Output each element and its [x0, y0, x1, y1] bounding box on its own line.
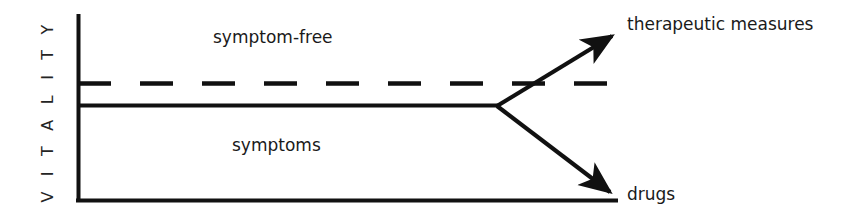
drugs-label: drugs: [627, 186, 675, 203]
therapeutic-measures-label: therapeutic measures: [627, 16, 813, 33]
vitality-diagram: V I T A L I T Y symptom-free symptoms th…: [0, 0, 864, 221]
y-axis-label: V I T A L I T Y: [40, 19, 56, 202]
symptom-free-zone-label: symptom-free: [213, 29, 333, 46]
therapeutic-measures-arrow: [497, 36, 612, 106]
drugs-arrow: [497, 106, 610, 192]
symptoms-zone-label: symptoms: [232, 137, 321, 154]
